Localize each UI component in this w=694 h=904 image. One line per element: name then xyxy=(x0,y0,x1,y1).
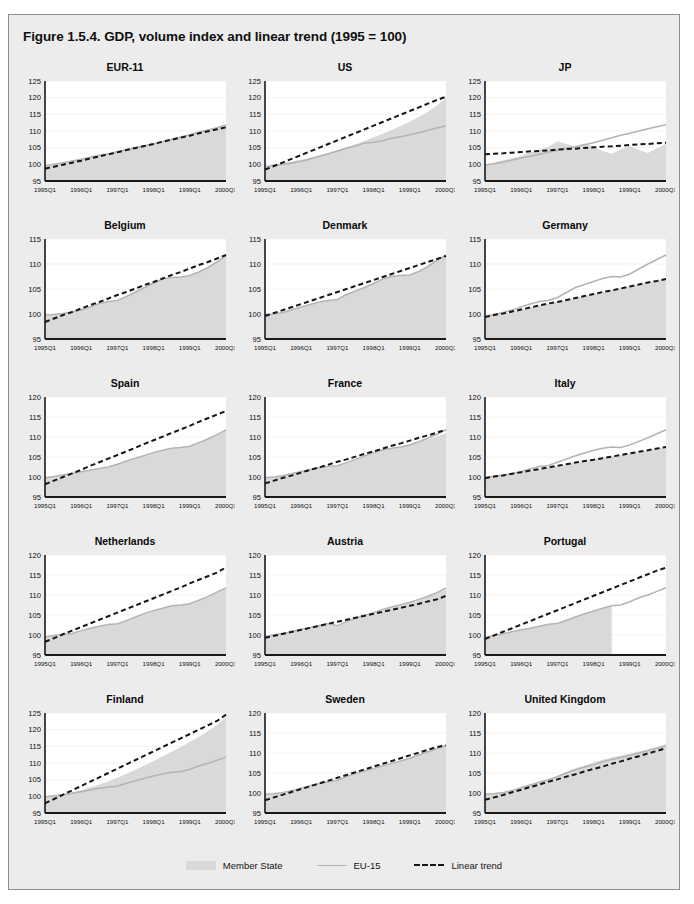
svg-text:1998Q1: 1998Q1 xyxy=(143,344,166,351)
svg-text:110: 110 xyxy=(249,749,261,758)
svg-text:95: 95 xyxy=(33,651,41,660)
svg-text:1996Q1: 1996Q1 xyxy=(510,660,533,667)
svg-text:1995Q1: 1995Q1 xyxy=(254,186,277,193)
chart-panel: Austria951001051101151201995Q11996Q11997… xyxy=(235,533,455,691)
svg-text:1997Q1: 1997Q1 xyxy=(326,502,349,509)
chart-panel-title: Finland xyxy=(15,693,235,705)
svg-text:110: 110 xyxy=(469,591,481,600)
svg-text:1997Q1: 1997Q1 xyxy=(106,186,129,193)
svg-text:95: 95 xyxy=(253,493,261,502)
svg-text:110: 110 xyxy=(469,433,481,442)
svg-text:110: 110 xyxy=(469,127,481,136)
chart-panel-title: Netherlands xyxy=(15,535,235,547)
svg-text:115: 115 xyxy=(249,413,261,422)
svg-text:120: 120 xyxy=(28,393,41,402)
chart-panel-plot: 951001051101151201251995Q11996Q11997Q119… xyxy=(15,707,235,833)
svg-text:1999Q1: 1999Q1 xyxy=(179,818,202,825)
svg-text:120: 120 xyxy=(248,93,261,102)
chart-panel-plot: 951001051101151201251995Q11996Q11997Q119… xyxy=(15,75,235,201)
svg-text:115: 115 xyxy=(29,571,41,580)
svg-text:95: 95 xyxy=(33,493,41,502)
chart-panel: Spain951001051101151201995Q11996Q11997Q1… xyxy=(15,375,235,533)
chart-panel-title: Denmark xyxy=(235,219,455,231)
svg-text:1999Q1: 1999Q1 xyxy=(619,502,642,509)
svg-text:1999Q1: 1999Q1 xyxy=(179,502,202,509)
svg-text:1999Q1: 1999Q1 xyxy=(399,818,422,825)
legend-label-linear-trend: Linear trend xyxy=(451,860,502,871)
svg-text:115: 115 xyxy=(469,729,481,738)
chart-panel: Italy951001051101151201995Q11996Q11997Q1… xyxy=(455,375,675,533)
svg-text:1998Q1: 1998Q1 xyxy=(583,818,606,825)
chart-panel-title: EUR-11 xyxy=(15,61,235,73)
svg-text:115: 115 xyxy=(29,413,41,422)
svg-text:105: 105 xyxy=(468,611,481,620)
svg-text:1998Q1: 1998Q1 xyxy=(363,818,386,825)
svg-text:100: 100 xyxy=(468,310,481,319)
figure-page: Figure 1.5.4. GDP, volume index and line… xyxy=(0,0,694,904)
svg-text:1999Q1: 1999Q1 xyxy=(399,186,422,193)
svg-text:100: 100 xyxy=(468,789,481,798)
svg-text:1997Q1: 1997Q1 xyxy=(546,344,569,351)
svg-text:100: 100 xyxy=(28,310,41,319)
svg-text:2000Q1: 2000Q1 xyxy=(435,344,455,351)
svg-text:1997Q1: 1997Q1 xyxy=(546,660,569,667)
svg-text:2000Q1: 2000Q1 xyxy=(435,818,455,825)
svg-text:110: 110 xyxy=(29,433,41,442)
chart-panel-plot: 951001051101151995Q11996Q11997Q11998Q119… xyxy=(455,233,675,359)
svg-text:1997Q1: 1997Q1 xyxy=(326,344,349,351)
svg-text:120: 120 xyxy=(28,93,41,102)
svg-text:105: 105 xyxy=(28,453,41,462)
linear-trend-dash-swatch xyxy=(414,864,444,866)
svg-text:110: 110 xyxy=(249,260,261,269)
chart-panel-plot: 951001051101151201251995Q11996Q11997Q119… xyxy=(455,75,675,201)
svg-text:1996Q1: 1996Q1 xyxy=(510,818,533,825)
chart-panel-plot: 951001051101151201995Q11996Q11997Q11998Q… xyxy=(15,391,235,517)
svg-text:100: 100 xyxy=(28,631,41,640)
svg-text:1998Q1: 1998Q1 xyxy=(363,502,386,509)
svg-text:110: 110 xyxy=(249,433,261,442)
chart-panel: US951001051101151201251995Q11996Q11997Q1… xyxy=(235,59,455,217)
svg-text:95: 95 xyxy=(253,809,261,818)
svg-text:2000Q1: 2000Q1 xyxy=(655,502,675,509)
svg-text:115: 115 xyxy=(249,571,261,580)
svg-text:1995Q1: 1995Q1 xyxy=(474,186,497,193)
figure-legend: Member State EU-15 Linear trend xyxy=(9,851,679,879)
svg-text:120: 120 xyxy=(248,709,261,718)
svg-text:120: 120 xyxy=(468,551,481,560)
svg-text:1995Q1: 1995Q1 xyxy=(474,660,497,667)
chart-panel-title: US xyxy=(235,61,455,73)
svg-text:95: 95 xyxy=(33,335,41,344)
svg-text:115: 115 xyxy=(249,729,261,738)
chart-panel-plot: 951001051101151995Q11996Q11997Q11998Q119… xyxy=(235,233,455,359)
svg-text:1999Q1: 1999Q1 xyxy=(619,660,642,667)
svg-text:1996Q1: 1996Q1 xyxy=(510,502,533,509)
svg-text:1995Q1: 1995Q1 xyxy=(254,818,277,825)
svg-text:100: 100 xyxy=(468,160,481,169)
svg-text:2000Q1: 2000Q1 xyxy=(655,186,675,193)
svg-text:1996Q1: 1996Q1 xyxy=(290,344,313,351)
svg-text:115: 115 xyxy=(469,235,481,244)
svg-text:105: 105 xyxy=(468,453,481,462)
chart-panel-plot: 951001051101151201251995Q11996Q11997Q119… xyxy=(235,75,455,201)
svg-text:110: 110 xyxy=(469,260,481,269)
chart-panel-title: France xyxy=(235,377,455,389)
svg-text:120: 120 xyxy=(28,725,41,734)
svg-text:1997Q1: 1997Q1 xyxy=(106,344,129,351)
svg-text:115: 115 xyxy=(29,235,41,244)
chart-panel-title: Italy xyxy=(455,377,675,389)
svg-text:1996Q1: 1996Q1 xyxy=(290,660,313,667)
chart-panel-plot: 951001051101151201995Q11996Q11997Q11998Q… xyxy=(455,707,675,833)
svg-text:105: 105 xyxy=(28,285,41,294)
member-state-area-swatch xyxy=(186,861,216,870)
svg-text:1999Q1: 1999Q1 xyxy=(399,344,422,351)
svg-text:115: 115 xyxy=(29,110,41,119)
svg-text:105: 105 xyxy=(248,611,261,620)
chart-panel: Germany951001051101151995Q11996Q11997Q11… xyxy=(455,217,675,375)
svg-text:1997Q1: 1997Q1 xyxy=(106,502,129,509)
chart-panel-plot: 951001051101151201995Q11996Q11997Q11998Q… xyxy=(235,707,455,833)
chart-panel-plot: 951001051101151201995Q11996Q11997Q11998Q… xyxy=(455,549,675,675)
chart-panel-title: Belgium xyxy=(15,219,235,231)
svg-text:1996Q1: 1996Q1 xyxy=(70,502,93,509)
svg-text:1997Q1: 1997Q1 xyxy=(106,818,129,825)
svg-text:105: 105 xyxy=(28,611,41,620)
